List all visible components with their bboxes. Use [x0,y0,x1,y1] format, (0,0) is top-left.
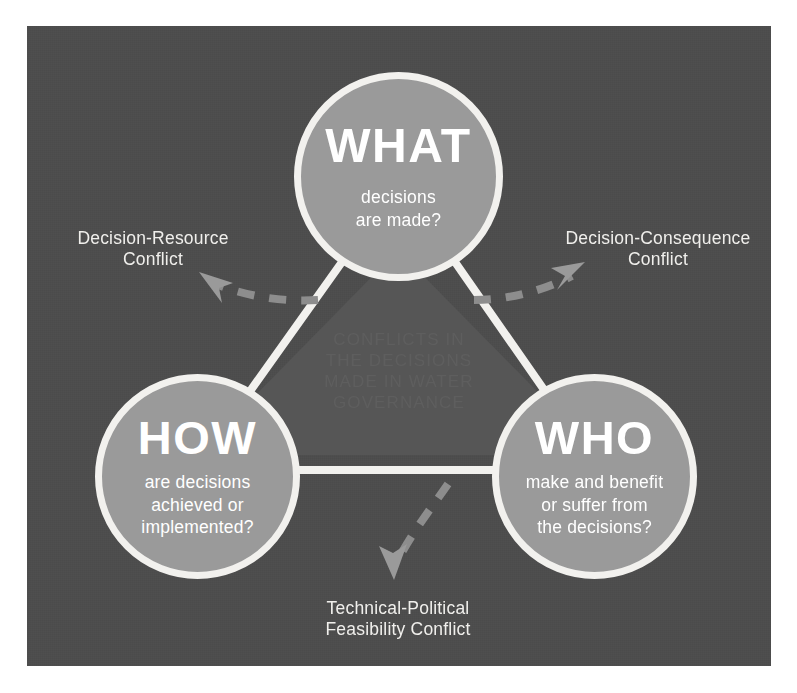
node-who-heading: WHO [535,414,654,461]
node-who[interactable]: WHO make and benefit or suffer from the … [492,374,697,579]
node-how-heading: HOW [138,414,257,461]
conflict-label-decision-consequence: Decision-Consequence Conflict [540,228,776,271]
node-what[interactable]: WHAT decisions are made? [294,72,503,281]
arrow-path-decision-resource [216,284,318,300]
arrow-path-technical-political [400,484,448,556]
node-how-question: are decisions achieved or implemented? [127,471,267,538]
node-how[interactable]: HOW are decisions achieved or implemente… [95,374,300,579]
conflict-label-technical-political-feasibility: Technical-Political Feasibility Conflict [253,598,543,641]
conflict-label-decision-resource: Decision-Resource Conflict [48,228,258,271]
node-who-question: make and benefit or suffer from the deci… [512,471,677,538]
center-caption: CONFLICTS IN THE DECISIONS MADE IN WATER… [299,330,499,414]
arrowhead-decision-resource [199,272,233,303]
arrow-path-decision-consequence [474,276,572,300]
diagram-canvas: CONFLICTS IN THE DECISIONS MADE IN WATER… [0,0,797,693]
node-what-heading: WHAT [325,122,471,170]
node-what-question: decisions are made? [342,186,455,231]
arrowhead-technical-political [379,544,407,580]
